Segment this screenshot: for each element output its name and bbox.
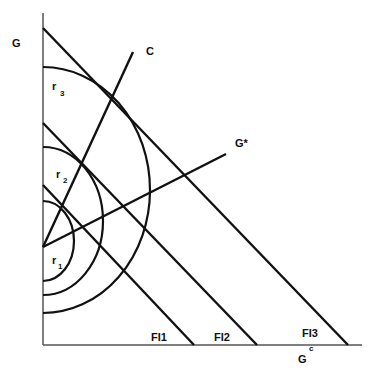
arc-r1-subscript: 1: [58, 263, 62, 271]
y-axis-label: G: [12, 38, 21, 49]
frontier-fi3: [43, 28, 348, 345]
ray-g-star: [43, 154, 226, 247]
frontier-fi2: [43, 123, 257, 345]
arc-r3-label: r: [52, 81, 56, 92]
x-axis-label-superscript: c: [309, 345, 313, 353]
frontier-fi3-label: FI3: [302, 328, 318, 339]
frontier-fi1-label: FI1: [151, 332, 167, 343]
x-axis-label: G: [298, 354, 307, 365]
ray-g-star-label: G*: [235, 138, 248, 149]
frontier-fi2-label: FI2: [214, 332, 230, 343]
diagram-canvas: [0, 0, 377, 379]
arc-r2-label: r: [56, 169, 60, 180]
arc-r1-label: r: [52, 255, 56, 266]
ray-c-label: C: [146, 46, 154, 57]
arc-r2-subscript: 2: [63, 177, 67, 185]
arc-r3-subscript: 3: [60, 90, 64, 98]
